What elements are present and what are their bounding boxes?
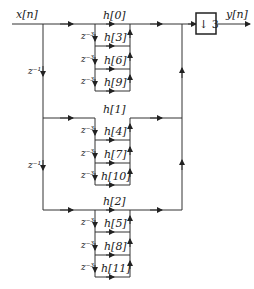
coef-h10: h[10] (101, 170, 131, 183)
coef-h9: h[9] (104, 76, 127, 89)
coef-h4: h[4] (104, 125, 127, 138)
delay-z3: z⁻³ (80, 240, 94, 250)
coef-h11: h[11] (101, 262, 131, 275)
coef-h3: h[3] (104, 31, 127, 44)
coef-h0: h[0] (103, 9, 126, 22)
output-label: y[n] (225, 8, 249, 21)
coef-h7: h[7] (104, 148, 127, 161)
outer-delay-2: z⁻¹ (27, 160, 41, 170)
coef-h5: h[5] (104, 217, 127, 230)
polyphase-group-1: h[1] h[4] h[7] h[10] z⁻³ z⁻³ z⁻³ (80, 103, 182, 185)
delay-z3: z⁻³ (80, 262, 94, 272)
delay-z3: z⁻³ (80, 31, 94, 41)
delay-z3: z⁻³ (80, 125, 94, 135)
coef-h8: h[8] (104, 240, 127, 253)
input-label: x[n] (16, 8, 39, 21)
delay-z3: z⁻³ (80, 148, 94, 158)
polyphase-group-2: h[2] h[5] h[8] h[11] z⁻³ z⁻³ z⁻³ (80, 195, 182, 277)
delay-z3: z⁻³ (80, 170, 94, 180)
coef-h6: h[6] (104, 54, 127, 67)
polyphase-filter-diagram: x[n] z⁻¹ z⁻¹ h[0] h[3] h[6] h[9] z⁻³ z⁻³… (0, 0, 254, 289)
outer-delay-1: z⁻¹ (27, 66, 41, 76)
downsampler-label: ↓ 3 (199, 18, 219, 31)
delay-z3: z⁻³ (80, 217, 94, 227)
polyphase-group-0: h[0] h[3] h[6] h[9] z⁻³ z⁻³ z⁻³ (80, 9, 130, 91)
delay-z3: z⁻³ (80, 54, 94, 64)
delay-z3: z⁻³ (80, 76, 94, 86)
coef-h1: h[1] (103, 103, 126, 116)
coef-h2: h[2] (103, 195, 126, 208)
